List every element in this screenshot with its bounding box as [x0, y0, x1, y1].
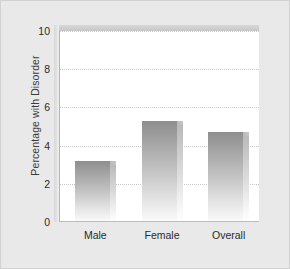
bar	[142, 121, 177, 222]
bar-front-face	[142, 121, 177, 222]
plot-canvas	[59, 31, 259, 222]
x-tick-label: Male	[84, 228, 107, 242]
gridline	[59, 107, 259, 108]
y-tick-label: 8	[32, 64, 50, 75]
gridline	[59, 31, 259, 32]
y-tick-label: 6	[32, 102, 50, 113]
y-tick-label: 10	[32, 26, 50, 37]
y-axis-line	[59, 31, 60, 222]
x-tick-label: Female	[144, 228, 179, 242]
bar-side-face	[177, 125, 183, 222]
bar-chart-figure: Percentage with Disorder 0246810 MaleFem…	[0, 0, 290, 269]
x-axis-line	[59, 221, 259, 222]
plot-area	[54, 25, 259, 222]
gridline	[59, 69, 259, 70]
y-axis-tick-labels: 0246810	[29, 1, 50, 269]
x-axis-tick-labels: MaleFemaleOverall	[54, 228, 259, 244]
bar-side-face	[110, 165, 116, 222]
y-tick-label: 2	[32, 179, 50, 190]
x-tick-label: Overall	[212, 228, 245, 242]
bar	[75, 161, 110, 222]
y-tick-label: 4	[32, 140, 50, 151]
bar-front-face	[75, 161, 110, 222]
bar-front-face	[208, 132, 243, 222]
bar	[208, 132, 243, 222]
y-tick-label: 0	[32, 217, 50, 228]
bar-side-face	[243, 136, 249, 222]
